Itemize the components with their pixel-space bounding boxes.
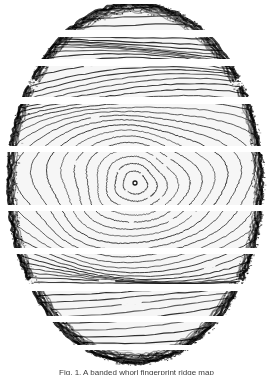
fingerprint-figure: Fig. 1. A banded whorl fingerprint ridge… (0, 0, 273, 375)
figure-caption: Fig. 1. A banded whorl fingerprint ridge… (0, 367, 273, 375)
fingerprint-image (0, 0, 273, 375)
